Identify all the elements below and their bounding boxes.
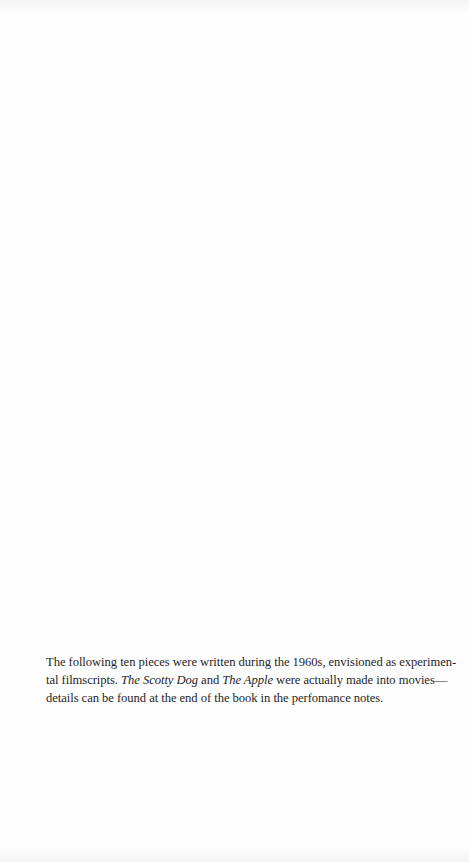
note-text: were actually made into movies— — [273, 673, 447, 687]
scan-edge-bottom — [0, 848, 469, 862]
note-text: and — [198, 673, 222, 687]
book-page: The following ten pieces were written du… — [0, 0, 469, 862]
note-line-1: The following ten pieces were written du… — [46, 653, 442, 671]
note-line-3: details can be found at the end of the b… — [46, 689, 442, 707]
scan-edge-top — [0, 0, 469, 14]
note-text: tal filmscripts. — [46, 673, 121, 687]
film-title-scotty-dog: The Scotty Dog — [121, 673, 198, 687]
film-title-apple: The Apple — [222, 673, 273, 687]
note-text: The following ten pieces were written du… — [46, 655, 456, 669]
note-line-2: tal filmscripts. The Scotty Dog and The … — [46, 671, 442, 689]
note-text: details can be found at the end of the b… — [46, 691, 383, 705]
prefatory-note: The following ten pieces were written du… — [46, 653, 442, 707]
